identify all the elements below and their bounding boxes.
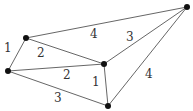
node-A: [23, 35, 29, 41]
edge-weight-label: 2: [37, 46, 45, 60]
edge-weight-label: 3: [54, 91, 62, 105]
edge-weight-label: 4: [145, 67, 153, 81]
edge-C-D: [104, 64, 108, 106]
edge-weight-label: 2: [63, 68, 71, 82]
edge-B-C: [8, 64, 104, 71]
edge-weight-label: 1: [4, 41, 12, 55]
node-B: [5, 68, 11, 74]
edge-weight-label: 3: [126, 30, 134, 44]
edge-D-E: [108, 7, 187, 106]
node-C: [101, 61, 107, 67]
edge-C-E: [104, 7, 187, 64]
edge-weight-label: 4: [90, 27, 98, 41]
edge-A-E: [26, 7, 187, 38]
node-E: [184, 4, 190, 10]
node-D: [105, 103, 111, 109]
edge-weight-label: 1: [92, 75, 100, 89]
weighted-graph: 14223134: [0, 0, 193, 111]
